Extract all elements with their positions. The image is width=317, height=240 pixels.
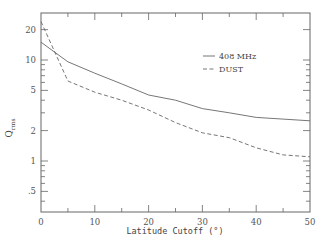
x-tick-label: 40 — [251, 217, 262, 227]
legend: 408 MHzDUST — [203, 52, 256, 74]
y-tick-label: 2 — [31, 126, 36, 136]
x-axis-ticks: 01020304050 — [38, 13, 315, 227]
y-axis-ticks: .51251020 — [25, 25, 310, 202]
y-axis-label-sub: rms — [9, 118, 16, 130]
y-tick-label: 10 — [25, 55, 36, 65]
legend-label: DUST — [219, 65, 244, 74]
y-axis-label-main: Q — [4, 130, 14, 137]
plot-frame — [41, 13, 310, 212]
svg-text:Qrms: Qrms — [4, 118, 16, 137]
plot-area — [41, 13, 310, 212]
data-series — [41, 22, 310, 157]
x-tick-label: 0 — [38, 217, 43, 227]
legend-label: 408 MHz — [219, 52, 256, 61]
line-chart: 01020304050 .51251020 408 MHzDUST Latitu… — [0, 0, 317, 240]
y-tick-label: 1 — [31, 156, 36, 166]
series-dust-line — [41, 22, 310, 157]
y-axis-label: Qrms — [4, 118, 16, 137]
y-tick-label: 5 — [31, 85, 36, 95]
y-tick-label: .5 — [28, 186, 36, 196]
series-408-mhz-line — [41, 42, 310, 121]
x-tick-label: 10 — [89, 217, 100, 227]
x-tick-label: 50 — [305, 217, 316, 227]
x-axis-label: Latitude Cutoff (°) — [126, 226, 223, 236]
y-tick-label: 20 — [25, 25, 36, 35]
